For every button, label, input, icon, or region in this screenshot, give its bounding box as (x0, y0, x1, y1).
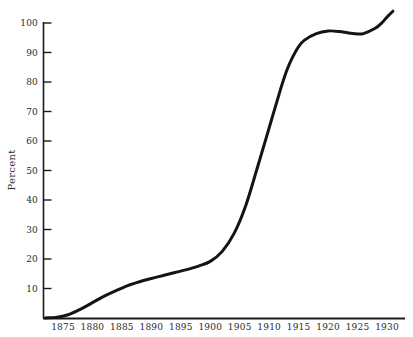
chart-container: 102030405060708090100 187518801885189018… (0, 0, 413, 337)
y-axis-tick-label: 40 (0, 195, 38, 205)
x-axis-tick-label: 1875 (51, 322, 75, 332)
x-axis-tick-label: 1895 (169, 322, 193, 332)
y-axis-tick-label: 90 (0, 48, 38, 58)
y-axis-tick-label: 20 (0, 254, 38, 264)
y-axis-tick-label: 70 (0, 107, 38, 117)
y-axis-tick-label: 100 (0, 18, 38, 28)
x-axis-tick-label: 1925 (346, 322, 370, 332)
x-axis-tick-label: 1885 (110, 322, 134, 332)
x-axis-tick-label: 1905 (228, 322, 252, 332)
y-axis-ticks (44, 23, 52, 289)
x-axis-tick-label: 1930 (375, 322, 399, 332)
x-axis-tick-label: 1890 (140, 322, 164, 332)
series-line-0 (45, 11, 393, 318)
y-axis-tick-label: 80 (0, 77, 38, 87)
y-axis-title: Percent (6, 149, 17, 190)
y-axis-tick-label: 60 (0, 136, 38, 146)
y-axis-tick-label: 30 (0, 225, 38, 235)
x-axis-tick-label: 1910 (257, 322, 281, 332)
axis-lines (43, 22, 405, 319)
x-axis-tick-label: 1880 (81, 322, 105, 332)
x-axis-tick-label: 1900 (198, 322, 222, 332)
x-axis-tick-label: 1920 (316, 322, 340, 332)
data-series-group (45, 11, 393, 318)
chart-plot-area (0, 0, 413, 337)
y-axis-tick-label: 10 (0, 284, 38, 294)
x-axis-tick-label: 1915 (287, 322, 311, 332)
